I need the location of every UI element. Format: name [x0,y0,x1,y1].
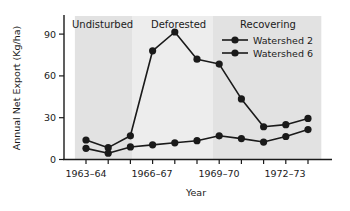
y-axis-ticks [59,34,64,159]
legend-label-watershed-2: Watershed 2 [253,35,313,46]
x-tick-label-2: 1969–70 [198,168,239,179]
region-label-undisturbed: Undisturbed [72,19,133,30]
chart-figure: Undisturbed Deforested Recovering 90 60 … [0,0,350,211]
data-point [304,115,311,122]
data-point [260,123,267,130]
data-point [82,136,89,143]
data-point [82,145,89,152]
y-tick-label-0: 0 [50,154,56,165]
region-band-deforested [133,16,213,159]
x-axis-title: Year [185,187,206,198]
data-point [238,95,245,102]
data-point [149,47,156,54]
region-label-deforested: Deforested [151,19,206,30]
legend-label-watershed-6: Watershed 6 [253,48,313,59]
data-point [216,60,223,67]
x-tick-label-0: 1963–64 [65,168,106,179]
data-point [282,121,289,128]
data-point [149,141,156,148]
data-point [127,143,134,150]
legend-marker-watershed-6 [231,49,238,56]
data-point [304,126,311,133]
line-chart: Undisturbed Deforested Recovering 90 60 … [0,0,350,211]
data-point [127,132,134,139]
data-point [216,132,223,139]
region-label-recovering: Recovering [240,19,296,30]
x-tick-label-3: 1972–73 [264,168,305,179]
data-point [260,138,267,145]
data-point [238,135,245,142]
y-tick-label-30: 30 [44,112,56,123]
y-tick-label-90: 90 [44,29,56,40]
data-point [282,133,289,140]
data-point [105,150,112,157]
legend-marker-watershed-2 [231,36,238,43]
y-axis-title: Annual Net Export (Kg/ha) [11,26,22,151]
y-tick-label-60: 60 [44,70,56,81]
x-tick-label-1: 1966–67 [131,168,172,179]
data-point [171,28,178,35]
data-point [171,139,178,146]
data-point [193,56,200,63]
data-point [193,137,200,144]
